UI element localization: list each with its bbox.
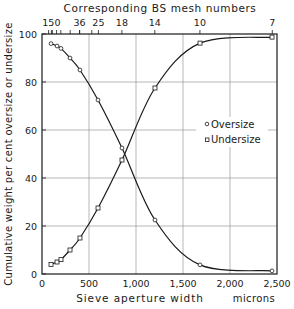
oversize-point — [270, 269, 274, 273]
undersize-point — [96, 206, 100, 210]
top-mesh-axis-ticks: 15036251814107 — [42, 17, 275, 34]
mesh-number-label: 25 — [92, 17, 104, 28]
data-series — [49, 35, 274, 273]
undersize-point — [270, 35, 274, 39]
chart: 05001,0001,5002,0002,500 020406080100 15… — [0, 0, 294, 309]
x-tick-label: 2,500 — [263, 278, 290, 289]
oversize-point — [153, 218, 157, 222]
oversize-point — [55, 44, 59, 48]
mesh-number-label: 14 — [149, 17, 161, 28]
top-axis-title: Corresponding BS mesh numbers — [64, 2, 257, 14]
y-tick-label: 0 — [31, 269, 37, 280]
undersize-point — [68, 248, 72, 252]
legend-undersize-label: Undersize — [211, 134, 261, 145]
y-axis-title: Cumulative weight per cent oversize or u… — [3, 22, 14, 285]
undersize-point — [153, 86, 157, 90]
mesh-number-label: 18 — [116, 17, 128, 28]
oversize-point — [96, 98, 100, 102]
y-tick-label: 100 — [19, 29, 37, 40]
y-tick-label: 80 — [25, 77, 37, 88]
x-tick-label: 1,000 — [122, 278, 149, 289]
undersize-point — [49, 262, 53, 266]
x-axis-title: Sieve aperture width — [76, 292, 204, 304]
legend: Oversize Undersize — [196, 117, 268, 147]
x-tick-label: 0 — [39, 278, 45, 289]
x-tick-label: 500 — [80, 278, 98, 289]
undersize-point — [120, 158, 124, 162]
mesh-number-label: 150 — [42, 17, 60, 28]
plot-frame — [42, 34, 277, 274]
x-axis-unit: microns — [233, 293, 275, 304]
oversize-point — [120, 146, 124, 150]
undersize-point — [198, 41, 202, 45]
oversize-point — [198, 263, 202, 267]
x-tick-label: 1,500 — [169, 278, 196, 289]
oversize-point — [49, 42, 53, 46]
y-tick-label: 20 — [25, 221, 37, 232]
oversize-point — [78, 68, 82, 72]
grid-lines — [42, 34, 277, 274]
oversize-marker-icon — [205, 122, 209, 126]
undersize-point — [78, 236, 82, 240]
oversize-point — [68, 56, 72, 60]
mesh-number-label: 10 — [194, 17, 206, 28]
legend-oversize-label: Oversize — [211, 119, 254, 130]
undersize-marker-icon — [206, 138, 210, 142]
mesh-number-label: 36 — [74, 17, 86, 28]
undersize-point — [59, 258, 63, 262]
y-tick-label: 60 — [25, 125, 37, 136]
x-tick-label: 2,000 — [216, 278, 243, 289]
mesh-number-label: 7 — [269, 17, 275, 28]
undersize-point — [55, 260, 59, 264]
y-tick-label: 40 — [25, 173, 37, 184]
oversize-point — [59, 47, 63, 51]
x-axis-ticks: 05001,0001,5002,0002,500 — [39, 278, 291, 289]
